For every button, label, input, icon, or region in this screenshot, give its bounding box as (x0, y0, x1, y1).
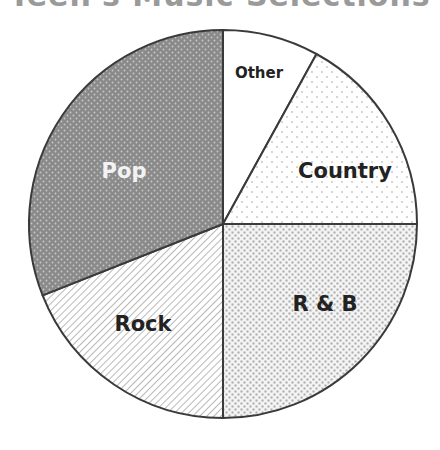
label-rnb: R & B (292, 292, 357, 316)
label-rock: Rock (114, 312, 172, 336)
label-other: Other (235, 64, 284, 82)
pie-chart: Other Country R & B Rock Pop (0, 0, 440, 450)
slice-rnb (223, 224, 417, 418)
label-pop: Pop (102, 159, 147, 183)
label-country: Country (298, 159, 392, 183)
